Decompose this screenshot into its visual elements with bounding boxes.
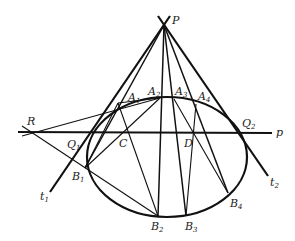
- label-R: R: [26, 115, 35, 128]
- label-A1: A1: [127, 91, 140, 105]
- diagram-canvas: P R Q1 Q2 C D p A1 A2 A3 A4 B1 B2 B3 B4 …: [0, 0, 295, 241]
- chord-A1-B1: [85, 103, 118, 168]
- tangent-line-t1: [50, 16, 170, 192]
- label-B1: B1: [71, 170, 85, 184]
- label-B4: B4: [229, 197, 243, 211]
- label-t1: t1: [40, 190, 49, 204]
- secant-P-B2: [158, 25, 164, 216]
- label-Q2: Q2: [242, 117, 256, 131]
- label-P: P: [171, 14, 180, 27]
- label-t2: t2: [270, 176, 279, 190]
- label-Q1: Q1: [67, 138, 81, 152]
- ellipse-polar-diagram: P R Q1 Q2 C D p A1 A2 A3 A4 B1 B2 B3 B4 …: [0, 0, 295, 241]
- chord-A1-B2: [118, 103, 158, 216]
- label-D: D: [183, 137, 193, 150]
- label-A2: A2: [147, 85, 161, 99]
- ellipse-conic: [87, 97, 247, 217]
- label-B3: B3: [184, 220, 198, 234]
- label-A3: A3: [174, 85, 188, 99]
- polar-line-p: [18, 132, 272, 133]
- chord-A4-B3: [186, 104, 196, 216]
- label-A4: A4: [197, 90, 210, 104]
- label-B2: B2: [150, 220, 164, 234]
- label-C: C: [119, 137, 128, 150]
- label-p: p: [276, 126, 283, 139]
